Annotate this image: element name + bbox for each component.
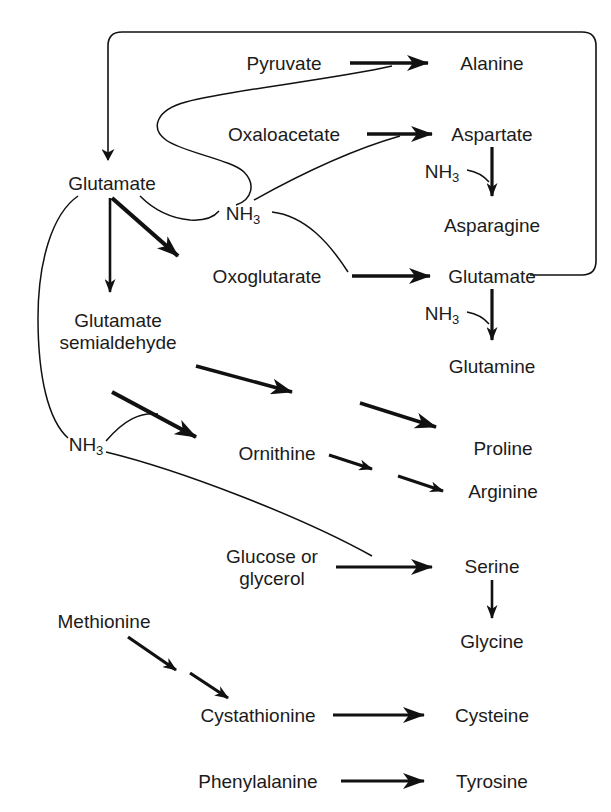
- node-glutamine: Glutamine: [449, 356, 536, 377]
- semialdehyde-line2: semialdehyde: [59, 332, 176, 354]
- nh3-subscript: 3: [96, 443, 103, 458]
- nh3-label-glutamate: NH3: [425, 303, 460, 325]
- node-aspartate: Aspartate: [451, 124, 532, 145]
- arrow-nh3-ornithine: [112, 392, 196, 437]
- node-pyruvate: Pyruvate: [247, 53, 322, 74]
- glucose-line2: glycerol: [226, 568, 318, 590]
- arrow-aspartate-asparagine: [467, 147, 492, 196]
- pathway-diagram: Glutamate Pyruvate Alanine Oxaloacetate …: [0, 0, 611, 812]
- node-glycine: Glycine: [460, 631, 523, 652]
- arrow-semialdehyde-proline-step1: [196, 366, 292, 392]
- glucose-line1: Glucose or: [226, 546, 318, 568]
- node-glutamate-right: Glutamate: [448, 266, 536, 287]
- node-methionine: Methionine: [58, 611, 151, 632]
- arrow-glutamate-oxoglutarate: [112, 198, 178, 256]
- node-ornithine: Ornithine: [238, 443, 315, 464]
- node-alanine: Alanine: [460, 53, 523, 74]
- nh3-label-center: NH3: [226, 203, 261, 225]
- arrow-glutamate-glutamine: [467, 289, 492, 340]
- nh3-label-left: NH3: [69, 434, 104, 456]
- semialdehyde-line1: Glutamate: [59, 310, 176, 332]
- arrow-semialdehyde-proline-step2: [360, 403, 436, 427]
- nh3-curve-to-glutamate-right: [272, 212, 348, 272]
- arrow-ornithine-arginine-step1: [329, 455, 372, 469]
- node-arginine: Arginine: [468, 481, 538, 502]
- arrow-methionine-cystathionine-step1: [128, 637, 176, 670]
- arrow-ornithine-arginine-step2: [398, 476, 443, 491]
- arrow-methionine-cystathionine-step2: [190, 673, 228, 698]
- nh3-curve-to-aspartate: [254, 136, 400, 200]
- glutamate-to-nh3-curve: [140, 196, 219, 220]
- nh3-subscript: 3: [253, 212, 260, 227]
- nh3-text: NH: [425, 161, 452, 182]
- node-asparagine: Asparagine: [444, 215, 540, 236]
- nh3-subscript: 3: [452, 312, 459, 327]
- nh3-subscript: 3: [452, 170, 459, 185]
- node-tyrosine: Tyrosine: [456, 771, 528, 792]
- nh3-text: NH: [226, 203, 253, 224]
- node-glucose-or-glycerol: Glucose or glycerol: [226, 546, 318, 590]
- nh3-text: NH: [69, 434, 96, 455]
- node-oxaloacetate: Oxaloacetate: [228, 124, 340, 145]
- nh3-label-aspartate: NH3: [425, 161, 460, 183]
- nh3-curve-to-serine: [106, 452, 372, 556]
- nh3-text: NH: [425, 303, 452, 324]
- node-glutamate-left: Glutamate: [68, 173, 156, 194]
- node-glutamate-semialdehyde: Glutamate semialdehyde: [59, 310, 176, 354]
- node-oxoglutarate: Oxoglutarate: [213, 266, 322, 287]
- node-cystathionine: Cystathionine: [200, 705, 315, 726]
- node-phenylalanine: Phenylalanine: [198, 771, 317, 792]
- node-serine: Serine: [465, 556, 520, 577]
- node-cysteine: Cysteine: [455, 705, 529, 726]
- pathway-arrows-layer: [0, 0, 611, 812]
- nh3-curve-to-ornithine: [106, 414, 158, 441]
- node-proline: Proline: [473, 438, 532, 459]
